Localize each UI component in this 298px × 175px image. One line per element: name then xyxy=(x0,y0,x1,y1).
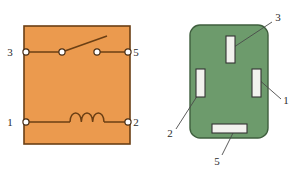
socket-label-2: 2 xyxy=(167,127,173,139)
schematic-body xyxy=(24,26,130,144)
socket-slot-3[interactable] xyxy=(226,36,235,63)
switch-pivot-node[interactable] xyxy=(59,49,65,55)
relay-schematic: 3 5 1 2 xyxy=(7,26,139,144)
socket-label-5: 5 xyxy=(214,155,220,167)
switch-contact-node[interactable] xyxy=(94,49,100,55)
schematic-label-1: 1 xyxy=(7,116,13,128)
socket-label-1: 1 xyxy=(283,94,289,106)
socket-slot-1[interactable] xyxy=(252,69,261,97)
socket-slot-5[interactable] xyxy=(212,124,247,133)
terminal-node-2[interactable] xyxy=(125,119,131,125)
schematic-label-5: 5 xyxy=(133,46,139,58)
terminal-node-5[interactable] xyxy=(125,49,131,55)
relay-socket: 3 1 2 5 xyxy=(167,11,289,167)
schematic-label-2: 2 xyxy=(133,116,139,128)
figure-canvas: 3 5 1 2 3 1 2 5 xyxy=(0,0,298,175)
terminal-node-1[interactable] xyxy=(23,119,29,125)
schematic-label-3: 3 xyxy=(7,46,13,58)
socket-label-3: 3 xyxy=(275,11,281,23)
terminal-node-3[interactable] xyxy=(23,49,29,55)
relay-figure-svg: 3 5 1 2 3 1 2 5 xyxy=(0,0,298,175)
socket-slot-2[interactable] xyxy=(196,69,205,97)
